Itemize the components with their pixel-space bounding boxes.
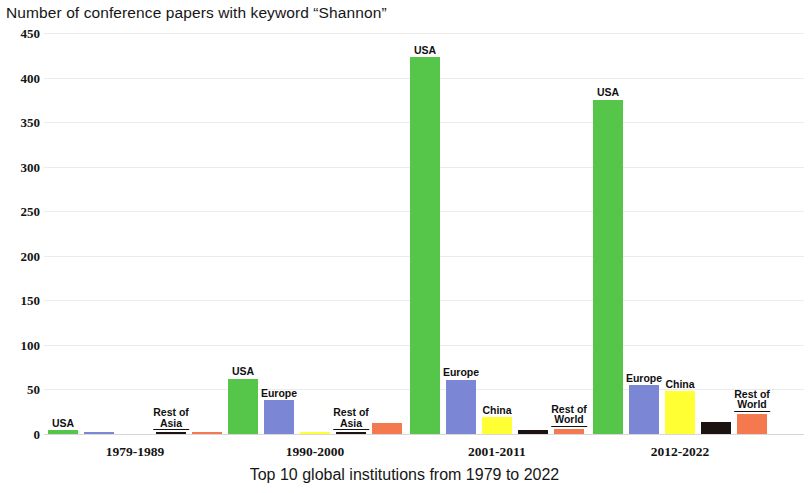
bar[interactable]: [84, 432, 114, 434]
bar-annotation-label: USA: [414, 45, 436, 56]
bar[interactable]: Rest of Asia: [156, 432, 186, 434]
y-axis-tick-label: 250: [2, 205, 40, 218]
y-axis: 050100150200250300350400450: [0, 33, 40, 434]
bar-group: USAEuropeChinaRest of World: [410, 33, 584, 434]
bar[interactable]: Rest of Asia: [336, 432, 366, 434]
x-axis-group-label: 2012-2022: [651, 444, 710, 460]
bar-annotation-label: USA: [597, 87, 619, 98]
bar[interactable]: USA: [410, 57, 440, 434]
bar[interactable]: China: [482, 417, 512, 434]
y-axis-tick-label: 50: [2, 383, 40, 396]
bar-annotation-label: USA: [52, 418, 74, 429]
bar[interactable]: Rest of World: [554, 429, 584, 434]
bar-chart: Number of conference papers with keyword…: [0, 0, 809, 493]
y-axis-tick-label: 150: [2, 294, 40, 307]
bar-annotation-label: Rest of World: [734, 389, 770, 412]
gridline: [44, 434, 804, 435]
bar-annotation-label: Rest of Asia: [333, 407, 369, 430]
bar[interactable]: USA: [593, 100, 623, 434]
bar[interactable]: China: [665, 391, 695, 434]
y-axis-tick-label: 300: [2, 160, 40, 173]
chart-title: Number of conference papers with keyword…: [6, 4, 387, 22]
bar-annotation-label: China: [665, 379, 694, 390]
x-axis-group-label: 2001-2011: [468, 444, 526, 460]
bar[interactable]: Europe: [446, 380, 476, 434]
bar[interactable]: Europe: [264, 400, 294, 434]
x-axis-title: Top 10 global institutions from 1979 to …: [0, 466, 809, 484]
bar-group: USAEuropeChinaRest of World: [593, 33, 767, 434]
bar[interactable]: [518, 430, 548, 434]
y-axis-tick-label: 400: [2, 71, 40, 84]
y-axis-tick-label: 350: [2, 116, 40, 129]
bar-annotation-label: Rest of Asia: [153, 407, 189, 430]
bar-group: USAEuropeRest of Asia: [228, 33, 402, 434]
bar[interactable]: [192, 432, 222, 434]
x-axis-group-label: 1979-1989: [106, 444, 165, 460]
x-axis-group-label: 1990-2000: [286, 444, 345, 460]
bar[interactable]: Rest of World: [737, 414, 767, 434]
bar[interactable]: [300, 432, 330, 434]
bar-annotation-label: China: [482, 405, 511, 416]
y-axis-tick-label: 200: [2, 249, 40, 262]
bar-annotation-label: Europe: [443, 367, 479, 378]
bar[interactable]: [372, 423, 402, 434]
bar-annotation-label: Rest of World: [551, 404, 587, 427]
bar-annotation-label: Europe: [626, 373, 662, 384]
bar-annotation-label: Europe: [261, 388, 297, 399]
bar-group: USARest of Asia: [48, 33, 222, 434]
bar-annotation-label: USA: [232, 366, 254, 377]
bar[interactable]: [701, 422, 731, 434]
bar[interactable]: Europe: [629, 385, 659, 434]
y-axis-tick-label: 100: [2, 338, 40, 351]
y-axis-tick-label: 450: [2, 27, 40, 40]
y-axis-tick-label: 0: [2, 428, 40, 441]
bar[interactable]: USA: [48, 430, 78, 434]
bar[interactable]: USA: [228, 379, 258, 434]
plot-area: USARest of AsiaUSAEuropeRest of AsiaUSAE…: [44, 33, 804, 434]
